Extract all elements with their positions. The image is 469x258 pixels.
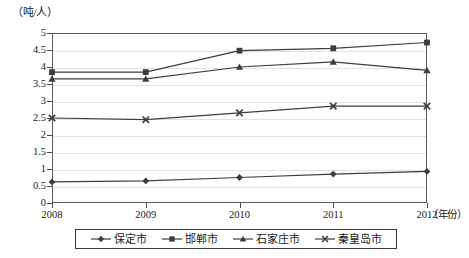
legend-marker-triangle-icon — [232, 233, 254, 245]
data-point-diamond — [142, 178, 149, 185]
line-chart: （吨/人） 00.511.522.533.544.55 200820092010… — [0, 0, 469, 258]
legend-marker-square-icon — [161, 233, 183, 245]
data-point-diamond — [49, 179, 56, 186]
data-point-diamond — [424, 168, 431, 175]
legend-item[interactable]: 邯郸市 — [161, 233, 218, 245]
legend-label: 秦皇岛市 — [338, 234, 382, 245]
data-point-diamond — [98, 236, 104, 242]
data-point-diamond — [236, 174, 243, 181]
data-point-square — [330, 45, 336, 51]
series-diamond — [49, 168, 431, 185]
data-point-diamond — [330, 171, 337, 178]
legend-marker-x-icon — [314, 233, 336, 245]
legend-item[interactable]: 石家庄市 — [232, 233, 300, 245]
legend-label: 石家庄市 — [256, 234, 300, 245]
legend-label: 邯郸市 — [185, 234, 218, 245]
series-triangle — [48, 58, 430, 81]
data-point-square — [169, 236, 174, 241]
legend-item[interactable]: 保定市 — [90, 233, 147, 245]
chart-legend: 保定市邯郸市石家庄市秦皇岛市 — [75, 229, 397, 249]
legend-label: 保定市 — [114, 234, 147, 245]
data-point-square — [237, 48, 243, 54]
data-point-square — [49, 69, 55, 75]
data-point-square — [143, 69, 149, 75]
legend-item[interactable]: 秦皇岛市 — [314, 233, 382, 245]
legend-marker-diamond-icon — [90, 233, 112, 245]
series-layer — [0, 0, 469, 258]
series-x — [49, 103, 430, 123]
data-point-square — [424, 40, 430, 46]
